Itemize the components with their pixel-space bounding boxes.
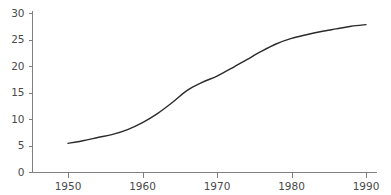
x-tick-label: 1970: [204, 180, 231, 192]
line-chart: 051015202530 19501960197019801990: [0, 0, 391, 195]
y-tick-label: 15: [11, 86, 24, 98]
y-tick-label: 10: [11, 113, 24, 125]
chart-canvas: 051015202530 19501960197019801990: [0, 0, 391, 195]
y-tick-label: 30: [11, 7, 24, 19]
y-tick-label: 20: [11, 60, 24, 72]
y-tick-label: 25: [11, 33, 24, 45]
y-tick-label: 5: [18, 139, 25, 151]
y-tick-label: 0: [18, 166, 25, 178]
x-tick-label: 1980: [278, 180, 305, 192]
x-tick-label: 1990: [353, 180, 380, 192]
x-tick-label: 1950: [55, 180, 82, 192]
x-tick-label: 1960: [129, 180, 156, 192]
